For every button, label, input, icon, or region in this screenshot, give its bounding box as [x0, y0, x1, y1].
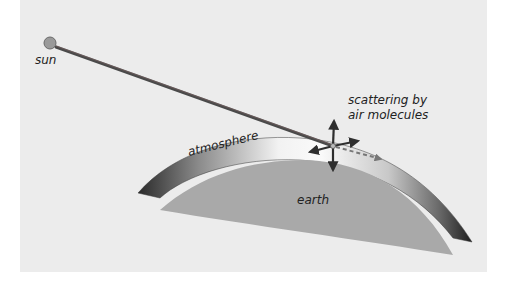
sun-ray [56, 47, 333, 146]
scattering-label-line1: scattering by [348, 93, 428, 108]
earth-label: earth [297, 193, 329, 208]
sun-icon [44, 37, 56, 49]
scattering-label: scattering by air molecules [348, 93, 428, 123]
scattering-label-line2: air molecules [348, 108, 428, 123]
sun-label: sun [35, 53, 56, 68]
diagram-stage: sun scattering by air molecules atmosphe… [0, 0, 510, 284]
